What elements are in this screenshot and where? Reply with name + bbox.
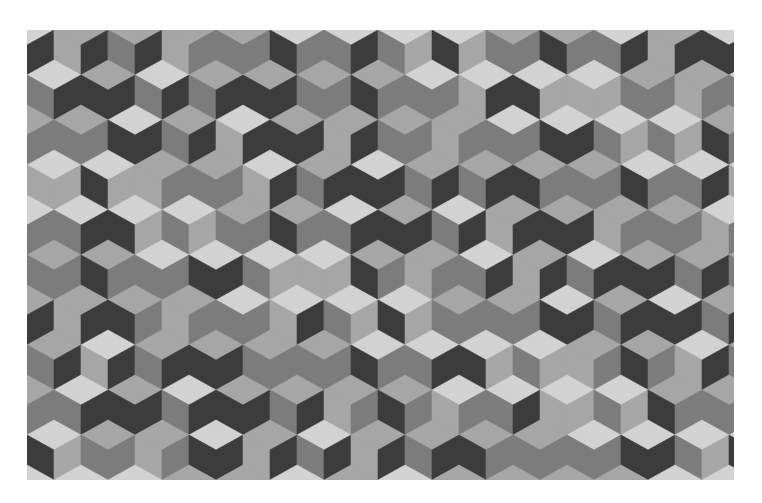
cube-tiling xyxy=(27,30,734,480)
cube-pattern-image xyxy=(27,30,734,480)
